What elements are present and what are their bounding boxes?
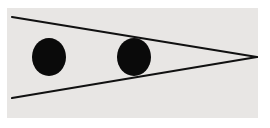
right-dot [117, 38, 151, 76]
left-dot [32, 38, 66, 76]
ponzo-illusion-figure [0, 0, 270, 128]
illusion-canvas [0, 0, 270, 128]
